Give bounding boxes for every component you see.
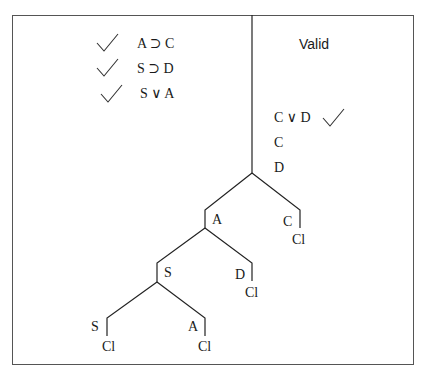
check-icon bbox=[101, 85, 122, 102]
verdict-label: Valid bbox=[299, 37, 329, 51]
branch-right-c bbox=[252, 173, 300, 228]
branch-s-leaf bbox=[107, 282, 157, 336]
leaf-s: S bbox=[91, 320, 99, 334]
check-icon bbox=[97, 59, 118, 76]
node-a: A bbox=[212, 213, 222, 227]
leaf-a: A bbox=[188, 320, 198, 334]
tree-lines bbox=[0, 0, 427, 380]
check-icon bbox=[323, 109, 344, 126]
trunk-formula-3: D bbox=[274, 161, 284, 175]
premise-1: A ⊃ C bbox=[137, 37, 174, 51]
node-s: S bbox=[164, 266, 172, 280]
node-c: C bbox=[283, 215, 292, 229]
closed-marker: Cl bbox=[102, 340, 115, 354]
node-d: D bbox=[235, 268, 245, 282]
premise-2: S ⊃ D bbox=[137, 62, 174, 76]
closed-marker: Cl bbox=[245, 286, 258, 300]
check-icon bbox=[97, 34, 118, 51]
trunk-formula-2: C bbox=[274, 136, 283, 150]
closed-marker: Cl bbox=[292, 233, 305, 247]
trunk-formula-1: C ∨ D bbox=[274, 111, 311, 125]
premise-3: S ∨ A bbox=[140, 87, 174, 101]
closed-marker: Cl bbox=[198, 340, 211, 354]
